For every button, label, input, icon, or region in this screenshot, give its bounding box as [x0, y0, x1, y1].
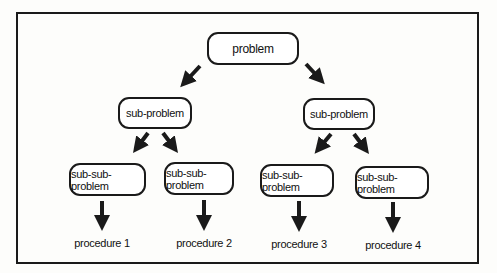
- node-sub-sub-problem-3: sub-sub-problem: [260, 164, 334, 197]
- procedure-3-label: procedure 3: [271, 238, 326, 250]
- procedure-4-label: procedure 4: [365, 239, 420, 251]
- node-sub-problem-left: sub-problem: [118, 97, 192, 129]
- node-sub-sub-problem-1: sub-sub-problem: [69, 163, 146, 196]
- arrow-right-to-ssp3: [321, 134, 331, 146]
- node-sub-sub-problem-4: sub-sub-problem: [355, 166, 429, 199]
- procedure-2-label: procedure 2: [176, 237, 231, 249]
- arrow-root-to-right: [306, 64, 318, 77]
- node-sub-sub-problem-2: sub-sub-problem: [164, 162, 234, 195]
- procedure-1-label: procedure 1: [74, 237, 129, 249]
- arrow-right-to-ssp4: [354, 134, 363, 146]
- arrow-left-to-ssp1: [139, 133, 148, 145]
- node-sub-problem-right: sub-problem: [303, 98, 375, 130]
- node-problem: problem: [207, 32, 299, 65]
- arrow-left-to-ssp2: [163, 133, 172, 145]
- arrow-root-to-left: [187, 66, 200, 80]
